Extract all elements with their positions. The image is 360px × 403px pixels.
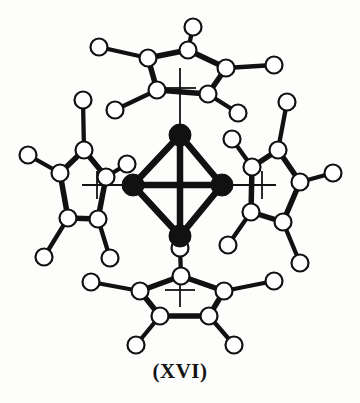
hydrogen-atom <box>83 274 100 291</box>
carbon-atom <box>173 268 190 285</box>
carbon-atom <box>218 60 235 77</box>
carbon-atom <box>275 214 292 231</box>
carbon-atom <box>243 204 260 221</box>
hydrogen-atom <box>107 102 124 119</box>
carbon-atom <box>52 165 69 182</box>
carbon-atom <box>201 308 218 325</box>
hydrogen-atom <box>279 94 296 111</box>
carbon-atom <box>180 42 197 59</box>
carbon-atom <box>270 142 287 159</box>
metal-atom-right <box>211 174 233 196</box>
hydrogen-atom <box>224 131 241 148</box>
figure-label: (XVI) <box>0 359 360 384</box>
hydrogen-atom <box>91 39 108 56</box>
carbon-atom <box>90 211 107 228</box>
hydrogen-atom <box>230 105 247 122</box>
carbon-atom <box>244 159 261 176</box>
carbon-atom <box>98 169 115 186</box>
hydrogen-atom <box>266 273 283 290</box>
hydrogen-atom <box>325 165 342 182</box>
hydrogen-atom <box>36 249 53 266</box>
hydrogen-atom <box>185 19 202 36</box>
carbon-atom <box>149 82 166 99</box>
hydrogen-atom <box>220 237 237 254</box>
hydrogen-atom <box>226 337 243 354</box>
metal-atom-top <box>169 124 191 146</box>
cluster-bonds-group <box>133 135 222 236</box>
carbon-atom <box>216 283 233 300</box>
carbon-atom <box>140 50 157 67</box>
hydrogen-atom <box>128 337 145 354</box>
metal-atom-left <box>122 174 144 196</box>
carbon-atom <box>152 308 169 325</box>
hydrogen-atom <box>20 147 37 164</box>
carbon-atom <box>76 142 93 159</box>
figure-root: (XVI) <box>0 0 360 403</box>
hydrogen-atom <box>266 57 283 74</box>
molecular-structure-diagram <box>0 0 360 403</box>
hydrogen-atom <box>102 250 119 267</box>
carbon-atom <box>292 174 309 191</box>
hydrogen-atom <box>292 255 309 272</box>
hydrogen-atom <box>75 92 92 109</box>
hydrogen-atom <box>119 156 136 173</box>
carbon-atom <box>200 86 217 103</box>
carbon-atom <box>60 210 77 227</box>
carbon-atom <box>132 283 149 300</box>
metal-atom-bottom <box>169 225 191 247</box>
